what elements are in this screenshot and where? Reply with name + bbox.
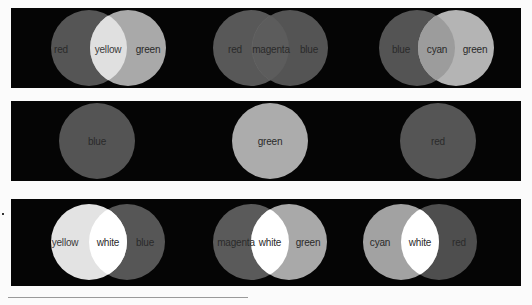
top-panel-additive-pairs: red yellow green red magenta blue blue c… [11,8,521,88]
label-blue: blue [392,44,411,55]
circle-group-red: red [400,103,476,179]
circle-group-green: green [232,103,308,179]
margin-mark [2,213,4,215]
page-rule [8,297,248,298]
label-cyan: cyan [370,237,390,248]
label-green: green [296,237,321,248]
venn-red-blue: red magenta blue [213,10,328,86]
label-red: red [452,237,466,248]
middle-panel-diagram: blue green red [11,101,521,181]
label-blue: blue [300,44,319,55]
label-red: red [228,44,242,55]
venn-cyan-red: cyan white red [363,204,477,280]
label-red: red [431,136,445,147]
bottom-panel-diagram: yellow white blue magenta white green cy… [11,199,521,286]
label-cyan: cyan [427,44,447,55]
bottom-panel-complementary-pairs: yellow white blue magenta white green cy… [11,199,521,286]
venn-blue-green: blue cyan green [379,10,494,86]
label-red: red [54,44,68,55]
circle-group-blue: blue [59,103,135,179]
middle-panel-primaries: blue green red [11,101,521,181]
label-green: green [136,44,161,55]
venn-magenta-green: magenta white green [213,204,327,280]
label-white: white [96,237,120,248]
label-white: white [408,237,432,248]
label-magenta: magenta [217,237,255,248]
venn-yellow-blue: yellow white blue [51,204,165,280]
label-blue: blue [136,237,155,248]
label-green: green [258,136,283,147]
top-panel-diagram: red yellow green red magenta blue blue c… [11,8,521,88]
label-blue: blue [88,136,107,147]
label-magenta: magenta [252,44,290,55]
label-yellow: yellow [95,44,123,55]
label-green: green [463,44,488,55]
label-yellow: yellow [52,237,80,248]
label-white: white [258,237,282,248]
venn-red-green: red yellow green [51,10,166,86]
